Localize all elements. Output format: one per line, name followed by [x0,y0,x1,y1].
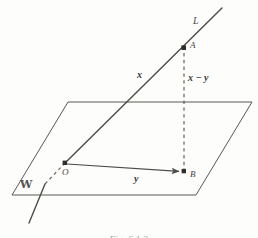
figure-canvas [0,0,258,238]
vector-y-label: y [134,174,138,184]
vector-difference-label: x − y [188,73,209,83]
figure-caption: Fig. 6.1.2 [0,234,258,238]
point-a-label: A [190,41,196,50]
point-a-marker [181,45,186,50]
point-b-label: B [190,170,196,179]
line-l-upper-segment [65,8,222,163]
plane-w-parallelogram [12,102,252,195]
geometry-figure: L A x x − y O y B W Fig. 6.1.2 [0,0,258,238]
line-l-label: L [193,16,199,26]
vector-y-arrow [67,164,179,171]
point-b-marker [182,169,186,173]
point-o-marker [63,161,67,165]
vector-x-label: x [137,70,142,80]
point-o-label: O [62,168,69,177]
plane-w-label: W [20,179,32,190]
